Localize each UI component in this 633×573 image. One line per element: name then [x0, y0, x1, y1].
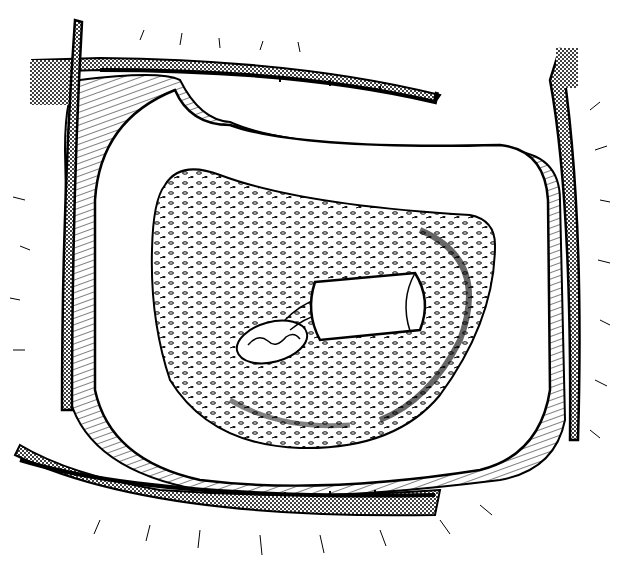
surgical-illustration	[0, 0, 633, 573]
left-retractor-tip	[30, 60, 70, 105]
cylindrical-implant	[311, 273, 425, 340]
